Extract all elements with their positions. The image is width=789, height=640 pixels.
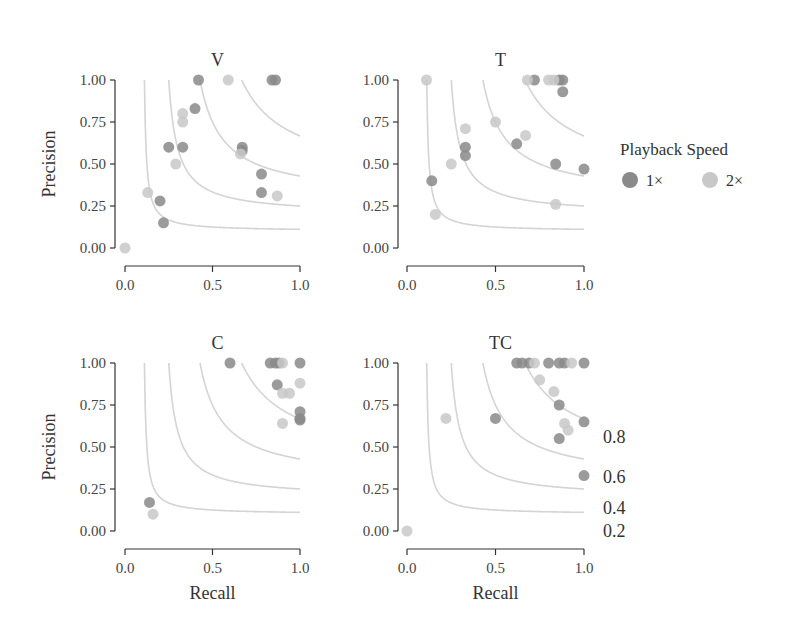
data-point (148, 509, 159, 520)
x-tick-label: 0.5 (486, 560, 505, 576)
data-point (566, 358, 577, 369)
y-tick-label: 0.00 (80, 523, 106, 539)
data-point (295, 358, 306, 369)
iso-f1-curve (169, 80, 300, 206)
data-point (193, 75, 204, 86)
iso-f1-label: 0.8 (603, 427, 626, 447)
data-point (223, 75, 234, 86)
data-point (446, 159, 457, 170)
x-tick-label: 0.0 (398, 277, 417, 293)
x-tick-label: 1.0 (291, 277, 310, 293)
data-point (235, 148, 246, 159)
x-tick-label: 0.0 (116, 277, 135, 293)
y-tick-label: 0.75 (363, 397, 389, 413)
y-tick-label: 0.25 (363, 481, 389, 497)
data-point (529, 358, 540, 369)
data-point (155, 195, 166, 206)
data-point (579, 358, 590, 369)
data-point (177, 142, 188, 153)
data-point (579, 416, 590, 427)
y-tick-label: 0.75 (363, 114, 389, 130)
x-tick-label: 1.0 (291, 560, 310, 576)
x-tick-label: 0.5 (486, 277, 505, 293)
y-tick-label: 0.75 (80, 114, 106, 130)
data-point (284, 388, 295, 399)
data-point (170, 159, 181, 170)
x-axis-title: Recall (190, 583, 236, 603)
legend: Playback Speed1×2× (620, 140, 743, 189)
iso-f1-label: 0.2 (603, 521, 626, 541)
legend-swatch (622, 172, 638, 188)
y-tick-label: 1.00 (80, 355, 106, 371)
data-point (295, 415, 306, 426)
x-tick-label: 0.5 (203, 277, 222, 293)
data-point (430, 209, 441, 220)
data-point (190, 103, 201, 114)
y-tick-label: 0.00 (363, 240, 389, 256)
panel-title: C (211, 333, 223, 353)
data-point (402, 526, 413, 537)
data-point (557, 86, 568, 97)
legend-label: 2× (726, 172, 743, 189)
data-point (142, 187, 153, 198)
iso-f1-curve (525, 80, 584, 136)
data-point (295, 378, 306, 389)
panel-title: V (211, 50, 224, 70)
data-point (277, 418, 288, 429)
iso-f1-label: 0.6 (603, 467, 626, 487)
y-axis-title: Precision (39, 414, 59, 481)
data-point (520, 130, 531, 141)
data-point (426, 175, 437, 186)
data-point (144, 497, 155, 508)
data-point (550, 159, 561, 170)
data-point (490, 413, 501, 424)
data-point (225, 358, 236, 369)
data-point (490, 117, 501, 128)
data-point (256, 169, 267, 180)
data-point (550, 199, 561, 210)
x-tick-label: 0.5 (203, 560, 222, 576)
y-tick-label: 0.50 (80, 439, 106, 455)
y-tick-label: 0.25 (363, 198, 389, 214)
data-point (579, 470, 590, 481)
iso-f1-curve (242, 80, 300, 136)
data-point (158, 217, 169, 228)
x-tick-label: 1.0 (575, 277, 594, 293)
x-axis-title: Recall (473, 583, 519, 603)
data-point (534, 374, 545, 385)
y-tick-label: 1.00 (80, 72, 106, 88)
data-point (460, 150, 471, 161)
panel-t: T0.000.250.500.751.000.00.51.0 (363, 50, 594, 293)
data-point (511, 138, 522, 149)
y-tick-label: 0.00 (363, 523, 389, 539)
data-point (522, 75, 533, 86)
data-point (270, 75, 281, 86)
panel-c: C0.000.250.500.751.000.00.51.0PrecisionR… (39, 333, 309, 603)
y-tick-label: 0.00 (80, 240, 106, 256)
iso-f1-curve (144, 80, 300, 229)
legend-label: 1× (646, 172, 663, 189)
panel-title: T (495, 50, 506, 70)
data-point (272, 190, 283, 201)
data-point (579, 164, 590, 175)
data-point (163, 142, 174, 153)
data-point (554, 400, 565, 411)
panel-v: V0.000.250.500.751.000.00.51.0Precision (39, 50, 309, 293)
y-tick-label: 0.25 (80, 481, 106, 497)
x-tick-label: 0.0 (398, 560, 417, 576)
data-point (120, 243, 131, 254)
y-tick-label: 1.00 (363, 72, 389, 88)
panel-tc: TC0.000.250.500.751.000.00.51.0Recall (363, 333, 594, 603)
y-axis-title: Precision (39, 131, 59, 198)
x-tick-label: 1.0 (575, 560, 594, 576)
data-point (421, 75, 432, 86)
data-point (548, 386, 559, 397)
data-point (256, 187, 267, 198)
data-point (554, 433, 565, 444)
data-point (548, 75, 559, 86)
y-tick-label: 1.00 (363, 355, 389, 371)
figure: V0.000.250.500.751.000.00.51.0PrecisionT… (0, 0, 789, 640)
data-point (563, 425, 574, 436)
y-tick-label: 0.25 (80, 198, 106, 214)
x-tick-label: 0.0 (116, 560, 135, 576)
